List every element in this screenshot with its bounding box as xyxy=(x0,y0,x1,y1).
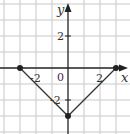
point-0-neg3 xyxy=(65,113,71,119)
xtick-label-2: 2 xyxy=(96,72,103,85)
ytick-label-neg2: -2 xyxy=(50,94,61,107)
origin-label: 0 xyxy=(57,71,64,84)
ytick-label-2: 2 xyxy=(57,30,64,43)
xtick-label-neg2: -2 xyxy=(30,72,41,85)
y-axis-label: y xyxy=(56,2,65,17)
point-3-0 xyxy=(113,65,119,71)
coordinate-plane: y x 0 -2 2 2 -2 xyxy=(0,0,130,134)
point-neg3-0 xyxy=(17,65,23,71)
x-axis-label: x xyxy=(121,70,129,85)
